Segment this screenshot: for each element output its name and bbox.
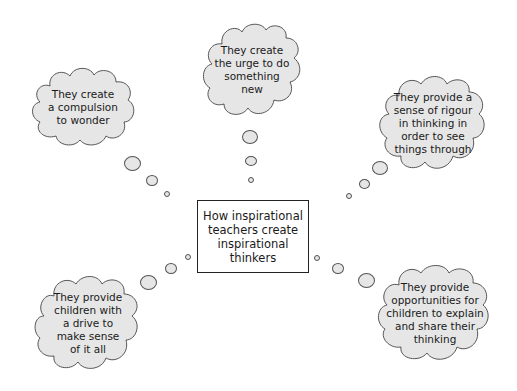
thought-bubble bbox=[332, 263, 344, 274]
thought-text: They provide a sense of rigour in thinki… bbox=[377, 74, 489, 172]
thought-cloud-top-left: They create a compulsion to wonder bbox=[28, 66, 138, 148]
thought-bubble bbox=[124, 156, 141, 171]
thought-cloud-bottom-left: They provide children with a drive to ma… bbox=[34, 274, 142, 372]
central-topic-box: How inspirational teachers create inspir… bbox=[197, 200, 309, 273]
thought-bubble bbox=[242, 130, 258, 144]
thought-cloud-top-right: They provide a sense of rigour in thinki… bbox=[377, 74, 489, 172]
thought-cloud-top-center: They create the urge to do something new bbox=[202, 22, 302, 118]
thought-bubble bbox=[140, 275, 157, 290]
thought-bubble bbox=[165, 263, 177, 274]
thought-text: They provide children with a drive to ma… bbox=[34, 274, 142, 372]
thought-text: They provide opportunities for children … bbox=[377, 263, 493, 363]
thought-bubble bbox=[358, 273, 375, 288]
thought-bubble bbox=[248, 177, 254, 183]
thought-bubble bbox=[314, 255, 320, 261]
thought-cloud-bottom-right: They provide opportunities for children … bbox=[377, 263, 493, 363]
thought-bubble bbox=[372, 161, 388, 175]
thought-bubble bbox=[359, 179, 370, 189]
thought-text: They create the urge to do something new bbox=[202, 22, 302, 118]
thought-bubble bbox=[146, 175, 158, 186]
mind-map-diagram: They create a compulsion to wonder They … bbox=[0, 0, 517, 391]
thought-bubble bbox=[346, 193, 352, 199]
thought-text: They create a compulsion to wonder bbox=[28, 66, 138, 148]
thought-bubble bbox=[164, 191, 170, 197]
thought-bubble bbox=[185, 254, 191, 260]
thought-bubble bbox=[245, 156, 257, 166]
